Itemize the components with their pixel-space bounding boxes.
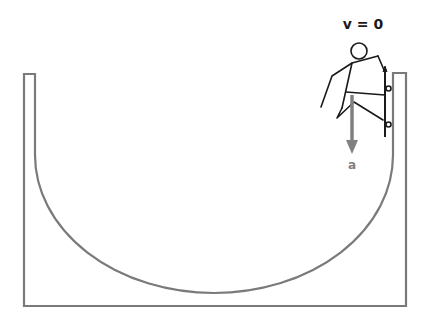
wheel-top xyxy=(386,86,391,91)
velocity-label: v = 0 xyxy=(343,16,384,32)
acceleration-label: a xyxy=(348,158,356,172)
wheel-bottom xyxy=(386,122,391,127)
halfpipe-diagram: v = 0 a xyxy=(0,0,429,322)
skater-head xyxy=(351,43,367,59)
skateboard xyxy=(383,66,391,137)
